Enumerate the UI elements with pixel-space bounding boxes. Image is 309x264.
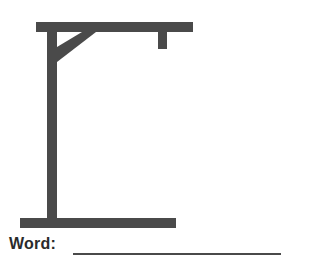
corner-brace-shape	[57, 32, 96, 62]
hangman-gallows-figure	[0, 0, 309, 236]
word-entry-row: Word:	[0, 234, 309, 264]
word-label: Word:	[9, 234, 56, 254]
rope-stub-shape	[158, 32, 167, 49]
upright-post-shape	[47, 22, 57, 220]
top-beam-shape	[36, 22, 193, 32]
worksheet-page: Word:	[0, 0, 309, 264]
gallows-drawing	[0, 0, 309, 236]
word-answer-blank[interactable]	[73, 253, 281, 255]
base-bar-shape	[20, 218, 176, 228]
